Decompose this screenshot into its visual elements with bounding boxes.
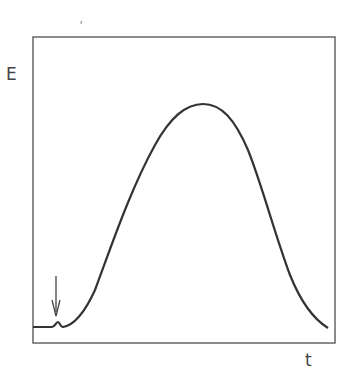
plot-frame <box>33 37 335 343</box>
y-axis-label: E <box>6 64 17 84</box>
x-axis-label: t <box>305 350 312 370</box>
chart-canvas: ′ <box>0 0 350 388</box>
stray-mark: ′ <box>80 19 83 33</box>
data-curve <box>33 104 328 328</box>
arrow-marker <box>52 276 60 316</box>
